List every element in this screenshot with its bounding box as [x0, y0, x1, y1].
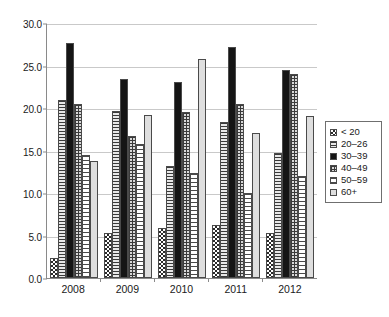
bar-group-2009 — [101, 24, 155, 278]
bar-2011-2026 — [220, 122, 228, 278]
bar-groups — [47, 24, 317, 278]
bar-2008-60+ — [90, 161, 98, 278]
bar-2010-60+ — [198, 59, 206, 278]
bar-2010-5059 — [190, 173, 198, 278]
legend-swatch-icon — [330, 141, 337, 148]
ytick-label-20: 20.0 — [23, 104, 42, 115]
bar-2009-60+ — [144, 115, 152, 278]
x-axis-label-2010: 2010 — [154, 283, 208, 295]
bar-chart: 30.0 25.0 20.0 15.0 10.0 5.0 0.0 2008200… — [0, 0, 389, 317]
legend-swatch-icon — [330, 129, 337, 136]
ytick-label-10: 10.0 — [23, 189, 42, 200]
ytick-label-0: 0.0 — [28, 274, 42, 285]
bar-group-2010 — [155, 24, 209, 278]
bar-group-2012 — [263, 24, 317, 278]
bar-2012-2026 — [274, 153, 282, 278]
bar-2009-5059 — [136, 144, 144, 278]
legend-swatch-icon — [330, 153, 337, 160]
legend-item-5059[interactable]: 50–59 — [330, 174, 378, 186]
ytick-label-15: 15.0 — [23, 146, 42, 157]
bar-2012-4049 — [290, 74, 298, 278]
bar-2011-4049 — [236, 104, 244, 278]
legend-swatch-icon — [330, 177, 337, 184]
x-axis-tick — [100, 278, 101, 282]
x-axis-label-2009: 2009 — [100, 283, 154, 295]
bar-group-2011 — [209, 24, 263, 278]
bar-2009-3039 — [120, 79, 128, 278]
legend-label: 50–59 — [341, 175, 367, 185]
bar-2008-<20 — [50, 258, 58, 278]
bar-2011-5059 — [244, 193, 252, 278]
legend-item-60+[interactable]: 60+ — [330, 186, 378, 198]
bar-2009-<20 — [104, 233, 112, 278]
legend-item-3039[interactable]: 30–39 — [330, 150, 378, 162]
ytick-label-30: 30.0 — [23, 19, 42, 30]
legend-item-4049[interactable]: 40–49 — [330, 162, 378, 174]
x-axis-label-2011: 2011 — [209, 283, 263, 295]
legend-swatch-icon — [330, 189, 337, 196]
bar-2008-3039 — [66, 43, 74, 278]
bar-2008-2026 — [58, 100, 66, 278]
bar-2012-5059 — [298, 176, 306, 278]
bar-2009-2026 — [112, 111, 120, 278]
legend-label: < 20 — [341, 127, 360, 137]
x-axis-label-2012: 2012 — [263, 283, 317, 295]
bar-2010-<20 — [158, 228, 166, 278]
x-axis-tick — [154, 278, 155, 282]
legend-label: 30–39 — [341, 151, 367, 161]
legend-label: 40–49 — [341, 163, 367, 173]
bar-2012-3039 — [282, 70, 290, 278]
x-axis-tick — [208, 278, 209, 282]
legend-item-<20[interactable]: < 20 — [330, 126, 378, 138]
bar-2009-4049 — [128, 136, 136, 278]
legend-item-2026[interactable]: 20–26 — [330, 138, 378, 150]
legend-label: 60+ — [341, 187, 357, 197]
legend-swatch-icon — [330, 165, 337, 172]
bar-2011-3039 — [228, 47, 236, 278]
legend: < 2020–2630–3940–4950–5960+ — [325, 121, 382, 203]
bar-2010-3039 — [174, 82, 182, 278]
bar-2011-<20 — [212, 225, 220, 278]
bar-2008-4049 — [74, 104, 82, 278]
x-axis-label-2008: 2008 — [46, 283, 100, 295]
bar-2011-60+ — [252, 133, 260, 278]
x-axis-labels: 20082009201020112012 — [46, 283, 317, 295]
bar-2010-2026 — [166, 166, 174, 278]
bar-2008-5059 — [82, 155, 90, 278]
bar-2012-<20 — [266, 233, 274, 278]
ytick-label-25: 25.0 — [23, 61, 42, 72]
bar-2010-4049 — [182, 112, 190, 278]
ytick-label-5: 5.0 — [28, 231, 42, 242]
bar-group-2008 — [47, 24, 101, 278]
bar-2012-60+ — [306, 116, 314, 278]
legend-label: 20–26 — [341, 139, 367, 149]
plot-area: 30.0 25.0 20.0 15.0 10.0 5.0 0.0 — [46, 24, 317, 279]
ytick-mark-0 — [43, 279, 47, 280]
x-axis-tick — [262, 278, 263, 282]
